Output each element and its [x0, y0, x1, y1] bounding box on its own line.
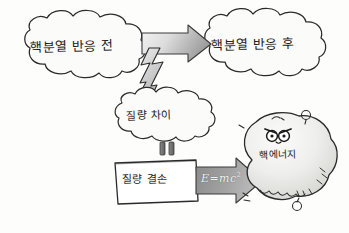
cloud-before-label: 핵분열 반응 전 [30, 35, 114, 56]
cloud-mass-difference-label: 질량 차이 [126, 105, 172, 123]
diagram-canvas: 핵분열 반응 전 핵분열 반응 후 질량 차이 질량 결손 E=mc2 핵에너지 [0, 0, 349, 233]
emc2-formula-label: E=mc2 [201, 171, 241, 185]
cloud-after-label: 핵분열 반응 후 [211, 33, 295, 54]
box-mass-defect-label: 질량 결손 [122, 170, 168, 187]
diagram-artwork [0, 0, 349, 233]
emc2-base: E=mc [201, 172, 236, 185]
blob-nuclear-energy-label: 핵에너지 [259, 145, 297, 161]
emc2-exponent: 2 [236, 171, 241, 179]
equals-sign [160, 142, 174, 155]
